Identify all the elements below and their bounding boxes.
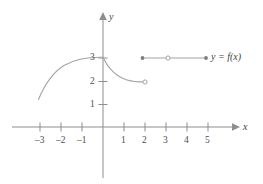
y-tick-label-2: 2 — [90, 77, 95, 87]
x-tick-label-4: 4 — [184, 136, 189, 146]
legend-segment-left-filled-marker — [141, 56, 145, 60]
legend-segment-right-filled-marker — [204, 56, 208, 60]
x-tick-label-neg1: –1 — [77, 136, 87, 146]
y-tick-label-3: 3 — [90, 53, 95, 63]
function-label: y = f(x) — [211, 52, 241, 62]
graph-canvas — [0, 0, 263, 184]
y-tick-label-1: 1 — [90, 100, 95, 110]
x-axis-label: x — [243, 122, 247, 132]
legend-segment-mid-open-marker — [166, 56, 170, 60]
x-tick-label-2: 2 — [142, 136, 147, 146]
x-tick-label-neg2: –2 — [56, 136, 66, 146]
y-axis-label: y — [109, 12, 113, 22]
x-axis-arrow-icon — [232, 123, 240, 131]
y-axis-arrow-icon — [99, 12, 107, 20]
x-tick-label-3: 3 — [163, 136, 168, 146]
x-tick-label-neg3: –3 — [35, 136, 45, 146]
x-tick-label-1: 1 — [121, 136, 126, 146]
x-tick-label-5: 5 — [205, 136, 210, 146]
curve-falling-branch — [103, 57, 144, 82]
open-endpoint-marker — [143, 80, 147, 84]
function-graph-figure: –3 –2 –1 1 2 3 4 5 1 2 3 x y y = f(x) — [0, 0, 263, 184]
